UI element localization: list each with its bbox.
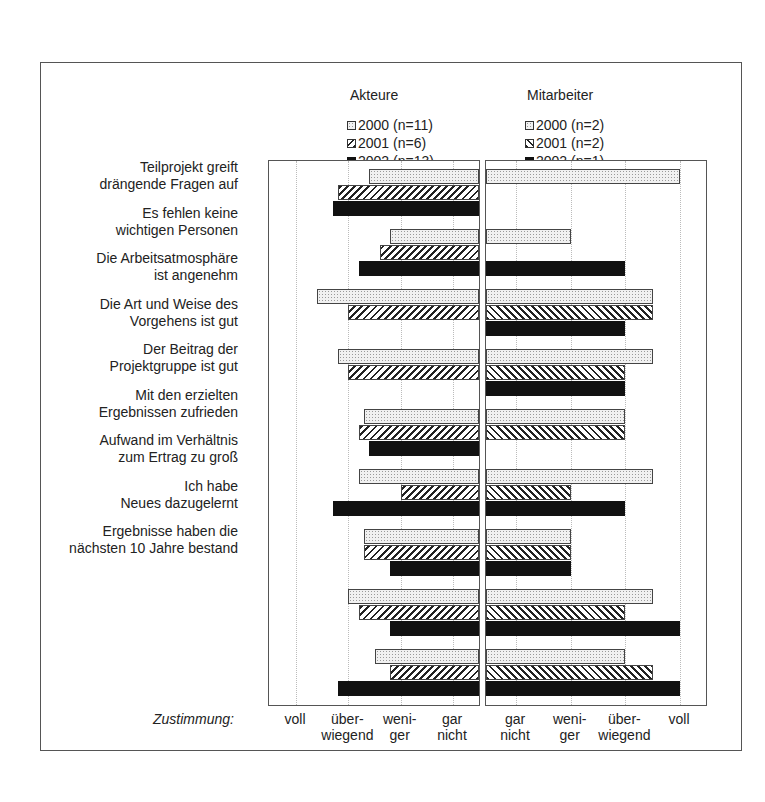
panel-title-mitarbeiter: Mitarbeiter (527, 87, 593, 103)
dots-swatch-icon (347, 121, 356, 130)
category-label: Aufwand im Verhältniszum Ertrag zu groß (8, 432, 238, 466)
category-label: Die Art und Weise desVorgehens ist gut (8, 296, 238, 330)
panel-title-akteure: Akteure (350, 87, 398, 103)
hatch-swatch-icon (347, 139, 356, 148)
legend-label: 2001 (n=2) (536, 135, 604, 151)
tick-label: voll (644, 711, 714, 743)
bar (486, 529, 571, 544)
axis-label-zustimmung: Zustimmung: (153, 711, 234, 727)
bar (375, 649, 479, 664)
bar (486, 289, 653, 304)
bar (486, 169, 680, 184)
bar (390, 665, 479, 680)
legend-item-2000: 2000 (n=2) (525, 116, 604, 134)
category-label: Es fehlen keinewichtigen Personen (8, 205, 238, 239)
bar (364, 529, 479, 544)
bar (338, 185, 479, 200)
bar (486, 649, 625, 664)
legend-item-2001: 2001 (n=6) (347, 134, 434, 152)
bar (390, 561, 479, 576)
bar (390, 621, 479, 636)
dots-swatch-icon (525, 121, 534, 130)
gridline (680, 161, 681, 705)
bar (486, 501, 625, 516)
category-label: Ich habeNeues dazugelernt (8, 478, 238, 512)
bar (390, 229, 479, 244)
bar (486, 605, 625, 620)
bar (380, 245, 479, 260)
bar (369, 169, 479, 184)
bar (486, 589, 653, 604)
bar (486, 381, 625, 396)
bar (486, 665, 653, 680)
bar (486, 365, 625, 380)
bar (338, 349, 479, 364)
legend-item-2001: 2001 (n=2) (525, 134, 604, 152)
bar (486, 681, 680, 696)
bar (486, 469, 653, 484)
gridline (348, 161, 349, 705)
legend-label: 2001 (n=6) (358, 135, 426, 151)
bar (486, 261, 625, 276)
bar (333, 201, 479, 216)
bar (486, 545, 571, 560)
bar (348, 305, 479, 320)
bar (486, 229, 571, 244)
bar (401, 485, 479, 500)
category-label: Die Arbeitsatmosphäreist angenehm (8, 250, 238, 284)
gridline (296, 161, 297, 705)
category-label: Der Beitrag derProjektgruppe ist gut (8, 341, 238, 375)
legend-label: 2000 (n=2) (536, 117, 604, 133)
legend-label: 2000 (n=11) (358, 117, 433, 133)
bar (486, 321, 625, 336)
category-label: Ergebnisse haben dienächsten 10 Jahre be… (8, 523, 238, 557)
category-label: Mit den erzieltenErgebnissen zufrieden (8, 387, 238, 421)
bar (486, 621, 680, 636)
bar (338, 681, 479, 696)
bar (486, 561, 571, 576)
category-label: Teilprojekt greiftdrängende Fragen auf (8, 159, 238, 193)
tick-label: garnicht (417, 711, 487, 743)
plot-panel-akteure (268, 160, 480, 706)
hatch-swatch-icon (525, 139, 534, 148)
bar (359, 261, 479, 276)
bar (317, 289, 479, 304)
bar (333, 501, 479, 516)
bar (486, 485, 571, 500)
bar (486, 409, 625, 424)
bar (486, 349, 653, 364)
bar (364, 545, 479, 560)
legend-item-2000: 2000 (n=11) (347, 116, 434, 134)
bar (486, 305, 653, 320)
bar (364, 409, 479, 424)
bar (369, 441, 479, 456)
bar (359, 469, 479, 484)
bar (348, 365, 479, 380)
bar (348, 589, 479, 604)
bar (359, 605, 479, 620)
plot-panel-mitarbeiter (485, 160, 707, 706)
bar (486, 425, 625, 440)
bar (359, 425, 479, 440)
